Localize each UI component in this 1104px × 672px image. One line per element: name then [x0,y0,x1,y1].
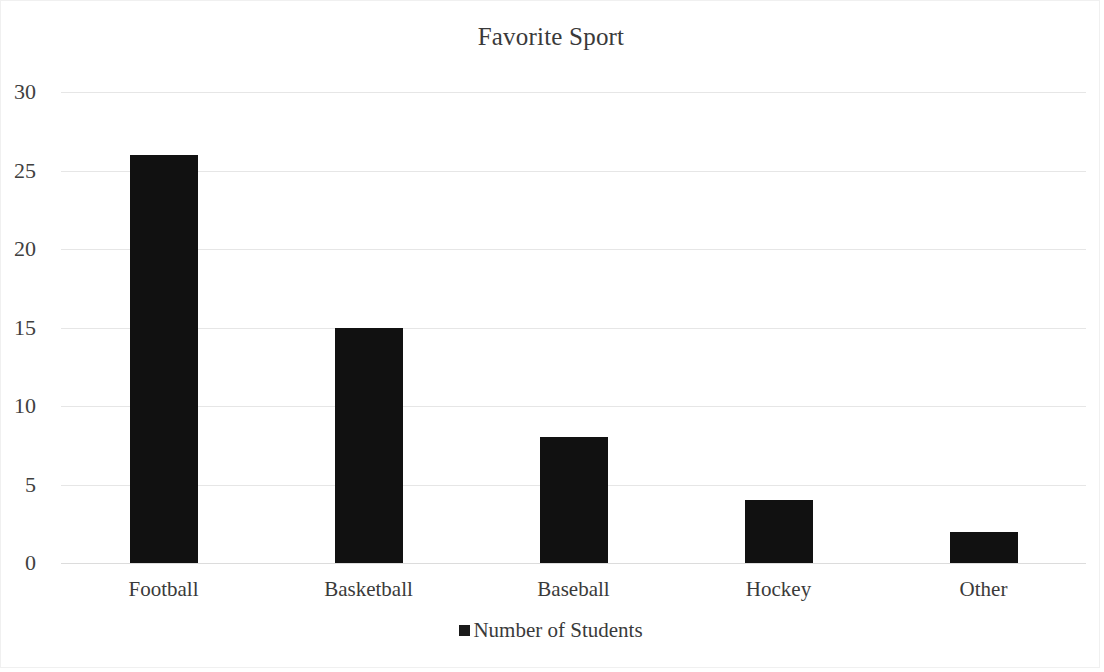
bar[interactable] [540,437,608,563]
bar[interactable] [335,328,403,564]
legend-swatch-icon [459,625,470,636]
bar[interactable] [950,532,1018,563]
bar[interactable] [130,155,198,563]
y-axis-tick-label: 20 [0,236,36,262]
gridline [61,92,1086,93]
y-axis-tick-label: 30 [0,79,36,105]
x-axis-tick-label: Basketball [266,577,471,602]
gridline [61,563,1086,564]
chart-container: Favorite Sport 051015202530 FootballBask… [0,0,1100,668]
x-axis-tick-label: Other [881,577,1086,602]
gridline [61,406,1086,407]
y-axis-tick-label: 10 [0,393,36,419]
plot-area: 051015202530 [61,92,1086,563]
y-axis-tick-label: 25 [0,158,36,184]
x-axis-tick-label: Football [61,577,266,602]
legend-label: Number of Students [473,618,642,643]
y-axis-tick-label: 15 [0,315,36,341]
y-axis-tick-label: 5 [0,472,36,498]
x-axis-tick-label: Baseball [471,577,676,602]
gridline [61,171,1086,172]
gridline [61,249,1086,250]
x-axis-tick-label: Hockey [676,577,881,602]
bar[interactable] [745,500,813,563]
gridline [61,328,1086,329]
y-axis-tick-label: 0 [0,550,36,576]
chart-title: Favorite Sport [1,23,1101,51]
chart-legend: Number of Students [1,618,1101,643]
